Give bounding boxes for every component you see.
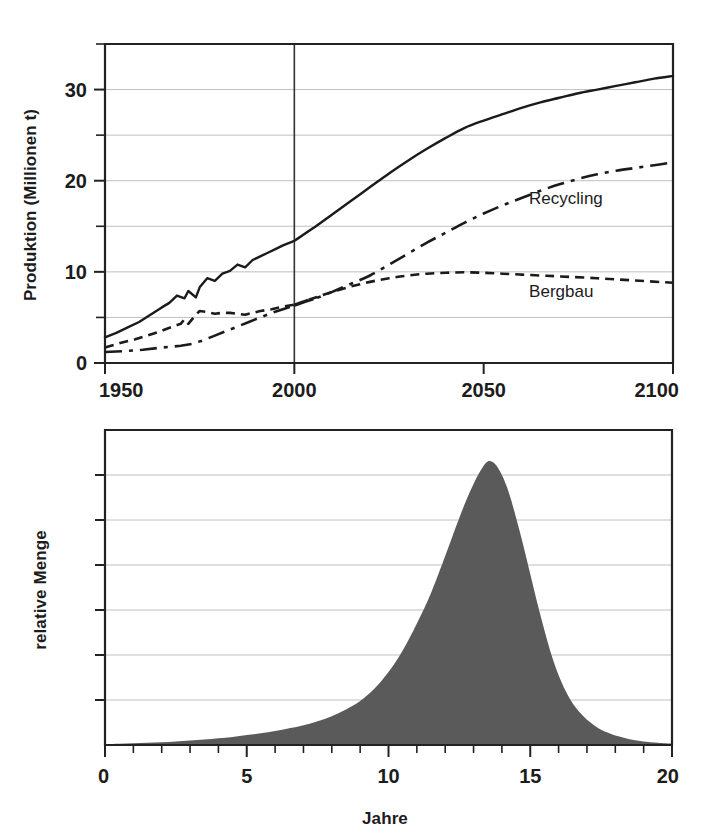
x-ticklabel: 2100 — [635, 379, 680, 400]
top-series-group — [105, 76, 673, 352]
x-ticklabel: 2000 — [272, 379, 317, 400]
y-axis-title-produktion: Produktion (Millionen t) — [21, 109, 40, 301]
y-ticklabel: 30 — [65, 79, 87, 101]
y-ticklabel: 0 — [76, 352, 87, 374]
top-ticklabels-group: 01020301950200020502100 — [65, 79, 679, 400]
x-ticklabel: 0 — [98, 765, 109, 787]
figure-root: 01020301950200020502100 RecyclingBergbau… — [0, 0, 723, 835]
y-axis-title-relative-menge: relative Menge — [31, 530, 50, 650]
annotation-recycling: Recycling — [529, 189, 603, 208]
x-ticklabel: 20 — [657, 765, 679, 787]
top-annotations-group: RecyclingBergbau — [529, 189, 603, 301]
relative-menge-chart-svg: 05101520 relative Menge Jahre — [0, 400, 723, 835]
produktion-chart-svg: 01020301950200020502100 RecyclingBergbau… — [0, 0, 723, 400]
x-ticklabel: 2050 — [461, 379, 506, 400]
bottom-ticklabels-group: 05101520 — [98, 765, 679, 787]
x-ticklabel: 15 — [519, 765, 541, 787]
area-series-relative-menge — [105, 461, 672, 745]
y-ticklabel: 10 — [65, 261, 87, 283]
relative-menge-chart-panel: 05101520 relative Menge Jahre — [0, 400, 723, 835]
y-ticklabel: 20 — [65, 170, 87, 192]
bottom-gridlines-group — [105, 475, 672, 700]
bottom-area-series-group — [105, 461, 672, 745]
x-ticklabel: 10 — [377, 765, 399, 787]
x-ticklabel: 5 — [241, 765, 252, 787]
x-ticklabel: 1950 — [99, 379, 144, 400]
x-axis-title-jahre: Jahre — [362, 809, 408, 828]
annotation-bergbau: Bergbau — [529, 282, 593, 301]
produktion-chart-panel: 01020301950200020502100 RecyclingBergbau… — [0, 0, 723, 400]
